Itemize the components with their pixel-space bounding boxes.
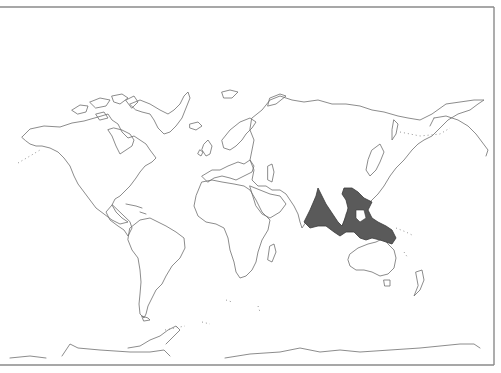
antarctica-coastline: [10, 344, 480, 358]
pacific-islands: [396, 228, 414, 258]
iceland: [190, 122, 202, 130]
world-distribution-map: [0, 0, 501, 373]
caribbean-islands: [126, 204, 146, 214]
south-america-coastline: [128, 218, 185, 318]
antarctic-peninsula: [128, 326, 180, 348]
aleutian-islands-west: [18, 150, 40, 163]
central-america-coastline: [106, 205, 132, 236]
tierra-del-fuego: [142, 316, 150, 321]
svalbard: [222, 90, 238, 98]
europe-coastline: [202, 160, 254, 182]
north-america-coastline: [22, 114, 156, 224]
madagascar: [268, 244, 276, 262]
aleutian-islands: [400, 128, 450, 136]
caspian-sea: [268, 164, 274, 182]
alaska-coastline: [430, 116, 488, 156]
africa-coastline: [194, 180, 270, 278]
map-canvas: [0, 0, 501, 373]
canadian-arctic-islands: [72, 94, 138, 120]
south-atlantic-islands: [165, 300, 260, 330]
japan-coastline: [366, 144, 384, 176]
tasmania: [384, 280, 390, 286]
british-isles: [198, 140, 212, 156]
australia-coastline: [348, 238, 396, 276]
distribution-range-shaded: [304, 188, 396, 244]
map-frame-border: [0, 7, 494, 365]
hudson-bay-coastline: [108, 128, 134, 154]
new-zealand: [414, 270, 424, 296]
sakhalin: [392, 120, 398, 140]
greenland-coastline: [130, 92, 190, 134]
